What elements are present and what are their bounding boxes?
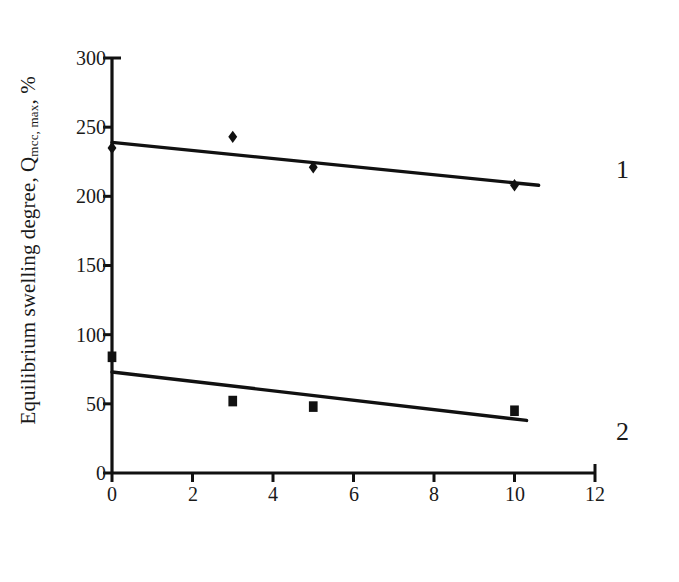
x-tick-label: 6 [334, 484, 374, 504]
x-axis-tick-labels: 0 2 4 6 8 10 12 [0, 0, 679, 582]
chart-figure: Equilibrium swelling degree, Qmcc, max, … [0, 0, 679, 582]
x-tick-label: 12 [575, 484, 615, 504]
series-label-1: 1 [616, 157, 629, 183]
x-tick-label: 0 [92, 484, 132, 504]
x-tick-label: 10 [495, 484, 535, 504]
x-tick-label: 8 [414, 484, 454, 504]
x-tick-label: 2 [173, 484, 213, 504]
series-label-2: 2 [616, 419, 629, 445]
x-tick-label: 4 [253, 484, 293, 504]
